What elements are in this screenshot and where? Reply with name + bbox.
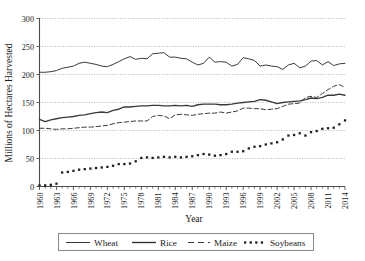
data-point xyxy=(310,131,312,133)
x-tick-label: 2008 xyxy=(307,193,316,209)
data-point xyxy=(287,134,289,136)
y-tick-label: 300 xyxy=(22,15,34,24)
data-point xyxy=(118,163,120,165)
data-point xyxy=(185,156,187,158)
chart-legend: WheatRiceMaizeSoybeans xyxy=(59,234,314,251)
data-point xyxy=(304,134,306,136)
x-tick-label: 1972 xyxy=(103,193,112,209)
x-tick-label: 1969 xyxy=(87,193,96,209)
data-point xyxy=(344,119,346,121)
data-point xyxy=(242,150,244,152)
data-point xyxy=(84,168,86,170)
data-point xyxy=(168,156,170,158)
data-point xyxy=(231,151,233,153)
data-point xyxy=(174,156,176,158)
data-point xyxy=(157,156,159,158)
data-point xyxy=(129,162,131,164)
data-point xyxy=(67,171,69,173)
x-tick-label: 1990 xyxy=(205,193,214,209)
x-tick-label: 2002 xyxy=(273,193,282,209)
y-axis-tick-labels: 050100150200250300 xyxy=(22,15,34,192)
data-series-group xyxy=(38,53,346,187)
y-tick-label: 0 xyxy=(30,183,34,192)
data-point xyxy=(214,155,216,157)
line-chart: 050100150200250300 196019631966196919721… xyxy=(0,0,365,261)
data-point xyxy=(265,143,267,145)
data-point xyxy=(106,166,108,168)
x-tick-label: 1978 xyxy=(137,193,146,209)
legend-swatch-soybeans xyxy=(244,241,246,243)
y-axis-title: Millions of Hectares Harvested xyxy=(4,43,14,162)
y-tick-label: 150 xyxy=(22,99,34,108)
legend-swatch-soybeans xyxy=(261,241,263,243)
legend-swatch-soybeans xyxy=(250,241,252,243)
data-point xyxy=(140,157,142,159)
data-point xyxy=(333,127,335,129)
data-point xyxy=(202,153,204,155)
x-tick-label: 1981 xyxy=(154,193,163,209)
y-tick-label: 200 xyxy=(22,71,34,80)
data-point xyxy=(38,184,40,186)
data-point xyxy=(219,154,221,156)
legend-label-soybeans: Soybeans xyxy=(270,238,306,248)
y-tick-label: 50 xyxy=(26,155,34,164)
data-point xyxy=(282,138,284,140)
data-point xyxy=(112,165,114,167)
data-point xyxy=(270,142,272,144)
data-point xyxy=(72,170,74,172)
data-point xyxy=(253,146,255,148)
data-point xyxy=(135,160,137,162)
x-tick-label: 2011 xyxy=(324,193,333,209)
x-tick-label: 1966 xyxy=(70,193,79,209)
data-point xyxy=(191,155,193,157)
legend-label-rice: Rice xyxy=(160,238,177,248)
chart-figure: 050100150200250300 196019631966196919721… xyxy=(0,0,365,261)
data-point xyxy=(197,154,199,156)
data-point xyxy=(248,147,250,149)
x-axis-tick-labels: 1960196319661969197219751978198119841987… xyxy=(36,193,351,209)
legend-label-maize: Maize xyxy=(214,238,237,248)
data-point xyxy=(225,153,227,155)
x-tick-label: 1975 xyxy=(120,193,129,209)
x-tick-label: 1987 xyxy=(188,193,197,209)
data-point xyxy=(44,184,46,186)
data-point xyxy=(146,156,148,158)
gridlines xyxy=(40,19,346,187)
data-point xyxy=(338,123,340,125)
data-point xyxy=(208,153,210,155)
series-rice xyxy=(40,94,346,121)
data-point xyxy=(321,128,323,130)
data-point xyxy=(89,167,91,169)
data-point xyxy=(180,156,182,158)
legend-swatch-soybeans xyxy=(255,241,257,243)
data-point xyxy=(152,157,154,159)
series-wheat xyxy=(40,53,346,73)
x-tick-label: 1993 xyxy=(222,193,231,209)
data-point xyxy=(61,171,63,173)
data-point xyxy=(276,141,278,143)
x-tick-label: 1999 xyxy=(256,193,265,209)
series-soybeans xyxy=(38,119,346,186)
data-point xyxy=(55,183,57,185)
data-point xyxy=(293,134,295,136)
y-tick-label: 100 xyxy=(22,127,34,136)
data-point xyxy=(123,163,125,165)
data-point xyxy=(101,166,103,168)
x-tick-label: 2014 xyxy=(341,193,350,209)
y-tick-label: 250 xyxy=(22,43,34,52)
data-point xyxy=(299,132,301,134)
data-point xyxy=(95,167,97,169)
x-tick-label: 2005 xyxy=(290,193,299,209)
data-point xyxy=(163,156,165,158)
x-tick-label: 1984 xyxy=(171,193,180,209)
data-point xyxy=(259,145,261,147)
x-tick-label: 1960 xyxy=(36,193,45,209)
x-tick-label: 1963 xyxy=(53,193,62,209)
data-point xyxy=(78,169,80,171)
data-point xyxy=(316,130,318,132)
x-axis-title: Year xyxy=(185,214,203,224)
x-tick-label: 1996 xyxy=(239,193,248,209)
data-point xyxy=(236,151,238,153)
data-point xyxy=(50,184,52,186)
data-point xyxy=(327,127,329,129)
